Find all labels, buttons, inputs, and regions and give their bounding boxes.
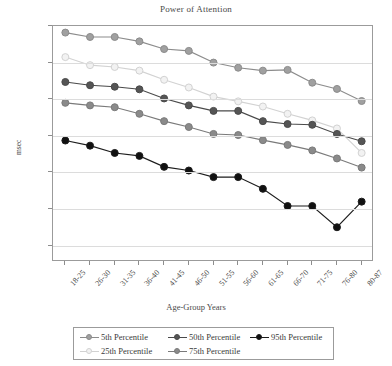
data-point — [284, 110, 291, 117]
data-point — [185, 47, 192, 54]
data-point — [235, 174, 242, 181]
data-point — [210, 174, 217, 181]
data-point — [62, 78, 69, 85]
data-point — [333, 85, 340, 92]
data-point — [111, 83, 118, 90]
x-tick-label: 18-25 — [69, 268, 88, 288]
x-tick-label: 26-30 — [93, 268, 112, 288]
gridline — [53, 172, 372, 173]
data-point — [333, 224, 340, 231]
x-tick-label: 51-55 — [217, 268, 236, 288]
data-point — [284, 121, 291, 128]
data-point — [259, 137, 266, 144]
data-point — [235, 64, 242, 71]
data-point — [358, 198, 365, 205]
legend-label: 5th Percentile — [101, 332, 148, 342]
data-point — [111, 63, 118, 70]
data-point — [87, 102, 94, 109]
legend-marker-icon — [80, 332, 99, 342]
x-tick-label: 76-80 — [340, 268, 359, 288]
data-point — [62, 137, 69, 144]
data-point — [358, 164, 365, 171]
legend-label: 25th Percentile — [101, 346, 152, 356]
data-point — [136, 86, 143, 93]
data-point — [358, 138, 365, 145]
gridline — [53, 136, 372, 137]
data-point — [185, 102, 192, 109]
legend-item-75th-percentile[interactable]: 75th Percentile — [168, 344, 240, 358]
legend-item-5th-percentile[interactable]: 5th Percentile — [80, 330, 148, 344]
data-point — [284, 66, 291, 73]
chart-figure: Power of Attention msec 9001000110012001… — [0, 0, 392, 366]
data-point — [161, 46, 168, 53]
y-axis-label: msec — [14, 140, 23, 155]
x-tick-label: 56-60 — [241, 268, 260, 288]
data-point — [309, 147, 316, 154]
x-tick-label: 61-65 — [266, 268, 285, 288]
legend-marker-icon — [168, 346, 187, 356]
data-point — [259, 185, 266, 192]
data-point — [259, 118, 266, 125]
data-point — [235, 107, 242, 114]
series-layer — [53, 26, 374, 262]
data-point — [136, 152, 143, 159]
gridline — [53, 63, 372, 64]
x-tick-label: 36-40 — [143, 268, 162, 288]
data-point — [62, 99, 69, 106]
series-line — [65, 141, 361, 228]
data-point — [259, 67, 266, 74]
data-point — [87, 82, 94, 89]
data-point — [185, 123, 192, 130]
series-95th-percentile — [62, 137, 365, 231]
x-tick-label: 31-35 — [118, 268, 137, 288]
data-point — [185, 84, 192, 91]
data-point — [210, 107, 217, 114]
gridline — [53, 209, 372, 210]
data-point — [309, 79, 316, 86]
data-point — [87, 33, 94, 40]
data-point — [161, 118, 168, 125]
data-point — [136, 38, 143, 45]
legend-item-25th-percentile[interactable]: 25th Percentile — [80, 344, 152, 358]
x-tick-label: 46-50 — [192, 268, 211, 288]
data-point — [111, 33, 118, 40]
data-point — [136, 67, 143, 74]
data-point — [87, 142, 94, 149]
legend-item-50th-percentile[interactable]: 50th Percentile — [168, 330, 240, 344]
legend-marker-icon — [250, 332, 269, 342]
plot-area — [52, 25, 373, 261]
gridline — [53, 99, 372, 100]
data-point — [333, 155, 340, 162]
gridline — [53, 246, 372, 247]
data-point — [62, 54, 69, 61]
x-tick-label: 66-70 — [291, 268, 310, 288]
x-tick-label: 41-45 — [167, 268, 186, 288]
data-point — [358, 149, 365, 156]
data-point — [161, 76, 168, 83]
data-point — [111, 149, 118, 156]
legend-label: 50th Percentile — [189, 332, 240, 342]
data-point — [161, 163, 168, 170]
legend-marker-icon — [80, 346, 99, 356]
legend-marker-icon — [168, 332, 187, 342]
x-tick-label: 71-75 — [315, 268, 334, 288]
series-25th-percentile — [62, 54, 365, 157]
chart-title: Power of Attention — [0, 4, 392, 14]
legend-label: 75th Percentile — [189, 346, 240, 356]
legend-label: 95th Percentile — [271, 332, 322, 342]
data-point — [259, 103, 266, 110]
data-point — [136, 110, 143, 117]
data-point — [284, 141, 291, 148]
data-point — [111, 104, 118, 111]
legend-item-95th-percentile[interactable]: 95th Percentile — [250, 330, 322, 344]
chart-legend: 5th Percentile25th Percentile50th Percen… — [73, 327, 334, 360]
data-point — [62, 29, 69, 36]
x-tick-label: 80-87 — [365, 268, 384, 288]
x-axis-label: Age-Group Years — [0, 302, 392, 312]
data-point — [309, 121, 316, 128]
series-line — [65, 57, 361, 153]
